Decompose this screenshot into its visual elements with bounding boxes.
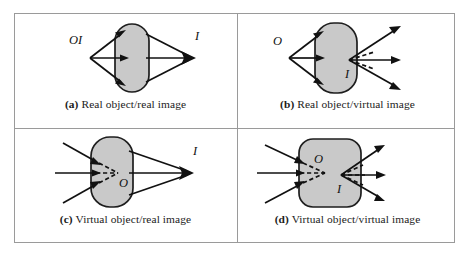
panel-a-caption: (a) Real object/real image [15,98,236,110]
panel-d-caption: (d) Virtual object/virtual image [237,213,458,225]
panel-d-caption-text: Virtual object/virtual image [292,213,421,225]
optics-figure: OI I (a) Real object/real image [0,0,470,256]
panel-b: O I (b) Real object/virtual image [237,14,458,128]
panel-c-diagram: O I [15,129,236,217]
object-image-label-a: OI [69,33,83,47]
panel-b-caption-text: Real object/virtual image [297,98,415,110]
panel-a: OI I (a) Real object/real image [15,14,236,128]
object-label-b: O [273,34,282,48]
image-label-c: I [192,144,198,158]
object-label-c: O [119,176,128,190]
outgoing-rays-c [129,151,194,195]
panel-a-caption-text: Real object/real image [81,98,186,110]
panel-b-caption: (b) Real object/virtual image [237,98,458,110]
image-label-d: I [336,182,342,196]
object-label-d: O [314,152,323,166]
panel-a-tag: (a) [65,98,79,110]
incoming-rays-d [257,145,305,203]
image-label-b: I [344,67,350,81]
panel-c-tag: (c) [60,213,73,225]
panel-c-caption-text: Virtual object/real image [76,213,192,225]
panel-b-diagram: O I [237,14,458,102]
panel-d-diagram: O I [237,129,458,217]
panel-b-tag: (b) [280,98,294,110]
panel-a-diagram: OI I [15,14,236,102]
figure-frame: OI I (a) Real object/real image [14,13,455,243]
outgoing-rays-a [146,34,196,82]
image-label-a: I [194,29,200,43]
panel-d-tag: (d) [275,213,289,225]
panel-c: O I (c) Virtual object/real image [15,129,236,243]
panel-d: O I (d) Virtual object/virtual image [237,129,458,243]
panel-c-caption: (c) Virtual object/real image [15,213,236,225]
